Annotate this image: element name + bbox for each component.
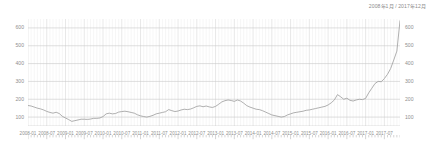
x-axis-tick-label: 2012-01 <box>170 131 187 136</box>
y-axis-left-tick-label: 600 <box>2 25 24 30</box>
y-axis-left-tick-label: 500 <box>2 43 24 48</box>
plot-area <box>28 19 400 126</box>
y-axis-right-tick-label: 500 <box>405 43 427 48</box>
x-axis-tick-label: 2015-07 <box>301 131 318 136</box>
chart-title: 2008年1月 / 2017年12月 <box>369 2 426 9</box>
x-axis-tick-label: 2017-01 <box>357 131 374 136</box>
y-axis-left-tick-label: 400 <box>2 61 24 66</box>
x-axis-tick-label: 2011-01 <box>132 131 149 136</box>
y-axis-right-tick-label: 400 <box>405 61 427 66</box>
y-axis-right-tick-label: 300 <box>405 79 427 84</box>
x-axis-tick-label: 2010-07 <box>113 131 130 136</box>
x-axis-tick-label: 2014-07 <box>263 131 280 136</box>
x-axis-tick-label: 2012-07 <box>188 131 205 136</box>
x-axis-tick-label: 2016-07 <box>338 131 355 136</box>
x-axis-labels: 2008-012008-072009-012009-072010-012010-… <box>0 131 432 145</box>
x-axis-tick-label: 2009-01 <box>57 131 74 136</box>
x-axis-tick-label: 2011-07 <box>151 131 168 136</box>
y-axis-right-tick-label: 600 <box>405 25 427 30</box>
x-axis-tick-label: 2014-01 <box>245 131 262 136</box>
x-axis-tick-label: 2009-07 <box>76 131 93 136</box>
x-axis-tick-label: 2015-01 <box>282 131 299 136</box>
x-axis-tick-label: 2008-07 <box>38 131 55 136</box>
x-axis-tick-label: 2017-07 <box>376 131 393 136</box>
y-axis-left-tick-label: 300 <box>2 79 24 84</box>
x-axis-tick-label: 2010-01 <box>95 131 112 136</box>
y-axis-left-tick-label: 100 <box>2 115 24 120</box>
x-axis-tick-label: 2013-07 <box>226 131 243 136</box>
x-axis-tick-label: 2008-01 <box>20 131 37 136</box>
series-line <box>28 19 400 126</box>
x-axis-tick-label: 2016-01 <box>320 131 337 136</box>
y-axis-left-tick-label: 200 <box>2 97 24 102</box>
line-chart: 2008年1月 / 2017年12月 100200300400500600 10… <box>0 0 432 153</box>
y-axis-right-tick-label: 100 <box>405 115 427 120</box>
y-axis-right-tick-label: 200 <box>405 97 427 102</box>
x-axis-tick-label: 2013-01 <box>207 131 224 136</box>
